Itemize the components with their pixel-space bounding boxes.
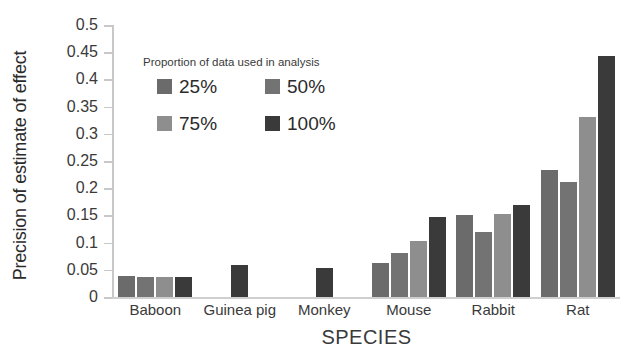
legend-item: 50% [265, 77, 373, 96]
y-axis-tick-mark [104, 215, 112, 217]
bar [541, 170, 558, 297]
y-axis-tick-label: 0.35 [67, 98, 98, 116]
bar-chart: Precision of estimate of effect 00.050.1… [0, 0, 633, 362]
y-axis-tick-label: 0.15 [67, 206, 98, 224]
y-axis-tick-label: 0.2 [76, 179, 98, 197]
y-axis-tick-label: 0 [89, 288, 98, 306]
bar [156, 277, 173, 297]
bar [118, 276, 135, 297]
y-axis-tick-mark [104, 243, 112, 245]
legend-item: 75% [157, 114, 265, 133]
y-axis-tick-labels: 00.050.10.150.20.250.30.350.40.450.5 [44, 25, 104, 297]
bar [316, 268, 333, 297]
bar-group [367, 25, 452, 297]
legend-label: 50% [287, 77, 325, 96]
legend-swatch-icon [265, 116, 280, 131]
x-axis-category-label: Rat [566, 301, 589, 318]
legend-label: 75% [179, 114, 217, 133]
x-axis-category-labels: BaboonGuinea pigMonkeyMouseRabbitRat [113, 301, 620, 325]
legend-items: 25%50%75%100% [143, 77, 358, 133]
x-axis-category-label: Rabbit [472, 301, 515, 318]
y-axis-tick-mark [104, 25, 112, 27]
bar-group [451, 25, 536, 297]
bar [429, 217, 446, 298]
bar [175, 277, 192, 297]
bar [560, 182, 577, 297]
y-axis-tick-mark [104, 188, 112, 190]
bar-group [536, 25, 621, 297]
bar [456, 215, 473, 297]
y-axis-tick-mark [104, 107, 112, 109]
y-axis-tick-label: 0.45 [67, 43, 98, 61]
bar [475, 232, 492, 297]
legend-label: 25% [179, 77, 217, 96]
y-axis-tick-label: 0.05 [67, 261, 98, 279]
bar [494, 214, 511, 297]
y-axis-tick-mark [104, 134, 112, 136]
bar [391, 253, 408, 297]
y-axis-tick-label: 0.3 [76, 125, 98, 143]
x-axis-category-label: Guinea pig [203, 301, 276, 318]
bar [231, 265, 248, 297]
x-axis-category-label: Monkey [298, 301, 351, 318]
x-axis-line [112, 297, 620, 299]
legend-swatch-icon [157, 79, 172, 94]
y-axis-tick-label: 0.1 [76, 234, 98, 252]
legend-title: Proportion of data used in analysis [143, 56, 358, 68]
bar [579, 117, 596, 297]
y-axis-tick-mark [104, 52, 112, 54]
bar [410, 241, 427, 297]
legend-swatch-icon [157, 116, 172, 131]
y-axis-tick-label: 0.4 [76, 70, 98, 88]
legend-item: 25% [157, 77, 265, 96]
legend: Proportion of data used in analysis 25%5… [143, 56, 358, 133]
x-axis-category-label: Mouse [386, 301, 431, 318]
legend-label: 100% [287, 114, 336, 133]
legend-swatch-icon [265, 79, 280, 94]
x-axis-category-label: Baboon [129, 301, 181, 318]
bar [372, 263, 389, 297]
y-axis-tick-label: 0.5 [76, 16, 98, 34]
legend-item: 100% [265, 114, 373, 133]
y-axis-tick-label: 0.25 [67, 152, 98, 170]
bar [598, 56, 615, 297]
bar [137, 277, 154, 297]
y-axis-tick-mark [104, 297, 112, 299]
bar [513, 205, 530, 297]
x-axis-title: SPECIES [113, 326, 620, 349]
y-axis-title: Precision of estimate of effect [10, 16, 31, 316]
y-axis-tick-mark [104, 270, 112, 272]
y-axis-tick-mark [104, 161, 112, 163]
y-axis-tick-mark [104, 79, 112, 81]
